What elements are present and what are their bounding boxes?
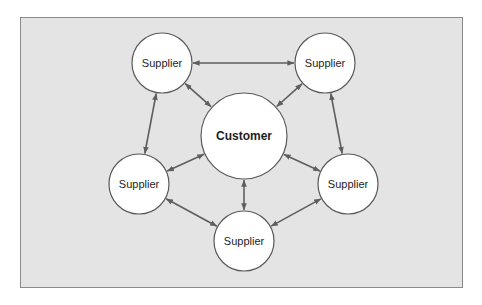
node-label: Supplier [224,235,265,247]
edge-customer-to-supplier-top-left [185,84,211,107]
edge-supplier-right-to-supplier-bottom [271,199,321,226]
node-label: Supplier [142,57,183,69]
node-label: Supplier [328,178,369,190]
edge-customer-to-supplier-left [167,154,204,171]
node-customer: Customer [201,93,287,179]
node-supplier-left: Supplier [109,154,169,214]
node-label: Customer [216,129,272,143]
node-supplier-right: Supplier [318,154,378,214]
node-supplier-top-right: Supplier [295,33,355,93]
edge-supplier-bottom-to-supplier-left [166,199,217,226]
edge-supplier-top-right-to-supplier-right [331,94,342,154]
supply-network-diagram: CustomerSupplierSupplierSupplierSupplier… [0,0,482,305]
node-label: Supplier [119,178,160,190]
nodes-layer: CustomerSupplierSupplierSupplierSupplier… [109,33,378,271]
node-supplier-top-left: Supplier [132,33,192,93]
edge-customer-to-supplier-top-right [277,84,302,107]
edge-supplier-left-to-supplier-top-left [145,94,156,154]
node-label: Supplier [305,57,346,69]
node-supplier-bottom: Supplier [214,211,274,271]
edge-customer-to-supplier-right [284,154,320,171]
